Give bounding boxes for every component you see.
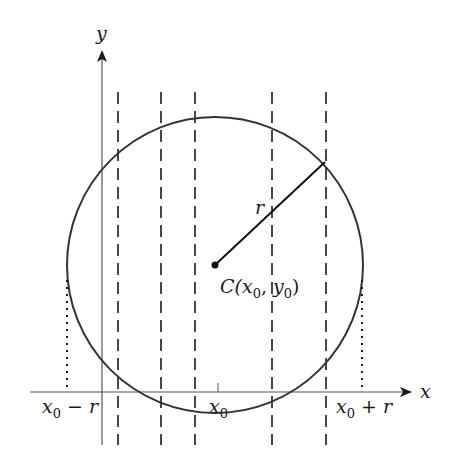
tick-label-x0-plus-r: x0 + r — [336, 395, 394, 421]
x-axis-label: x — [420, 380, 431, 402]
center-label: C(x0, y0) — [220, 275, 299, 301]
tick-label-x0-minus-r: x0 − r — [42, 395, 100, 421]
radius-label: r — [255, 196, 266, 218]
circle-diagram: y x r C(x0, y0) x0 − r x0 x0 + r — [0, 0, 457, 461]
center-point — [212, 262, 219, 269]
radius-line — [215, 162, 325, 265]
y-axis-label: y — [95, 22, 107, 44]
tick-label-x0: x0 — [209, 395, 228, 421]
